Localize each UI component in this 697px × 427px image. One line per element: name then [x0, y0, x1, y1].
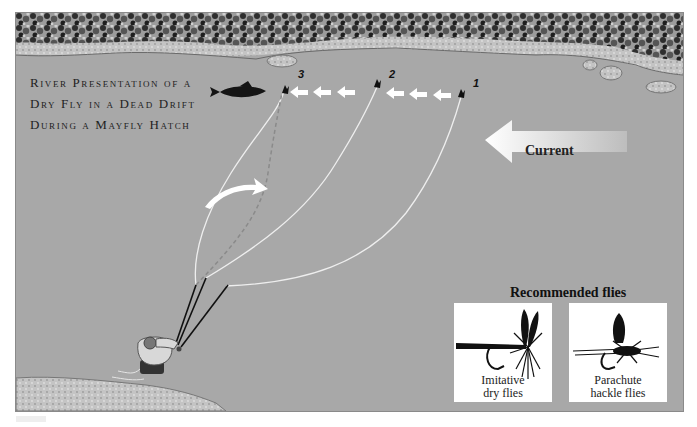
recommended-flies-title: Recommended flies: [510, 285, 626, 301]
drift-arrows: [290, 86, 451, 101]
faint-caption: [16, 416, 46, 422]
diagram-title: River Presentation of a Dry Fly in a Dea…: [30, 72, 196, 135]
fly-card-label: Parachute hackle flies: [569, 374, 667, 400]
rod-position-1: [181, 285, 228, 347]
trout-icon: [210, 81, 266, 97]
near-bank: [16, 377, 226, 411]
angler-figure: [112, 337, 182, 380]
fly-line-2: [206, 87, 377, 278]
title-line-1: River Presentation of a: [30, 72, 196, 93]
rock: [267, 55, 297, 67]
rock: [646, 81, 676, 93]
position-label-2: 2: [389, 68, 395, 80]
rock: [583, 60, 597, 70]
position-label-1: 1: [473, 77, 479, 89]
mend-arrow-icon: [205, 178, 268, 209]
fly-card-imitative: Imitative dry flies: [454, 303, 552, 402]
position-label-3: 3: [298, 68, 304, 80]
title-line-2: Dry Fly in a Dead Drift: [30, 93, 196, 114]
fly-card-label: Imitative dry flies: [454, 374, 552, 400]
title-line-3: During a Mayfly Hatch: [30, 114, 196, 135]
river-illustration: River Presentation of a Dry Fly in a Dea…: [16, 13, 683, 411]
rod-position-3: [176, 285, 196, 343]
fly-card-parachute: Parachute hackle flies: [569, 303, 667, 402]
rod-position-2: [178, 278, 206, 345]
fly-1-icon: [458, 89, 465, 98]
current-label: Current: [525, 143, 574, 159]
fly-3-icon: [282, 85, 289, 94]
rock: [600, 66, 622, 80]
fly-2-icon: [374, 79, 381, 88]
